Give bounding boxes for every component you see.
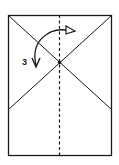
center-point-dot bbox=[58, 61, 62, 65]
paper-outline bbox=[9, 16, 112, 156]
origami-diagram bbox=[0, 0, 119, 165]
step-number: 3 bbox=[22, 57, 27, 67]
